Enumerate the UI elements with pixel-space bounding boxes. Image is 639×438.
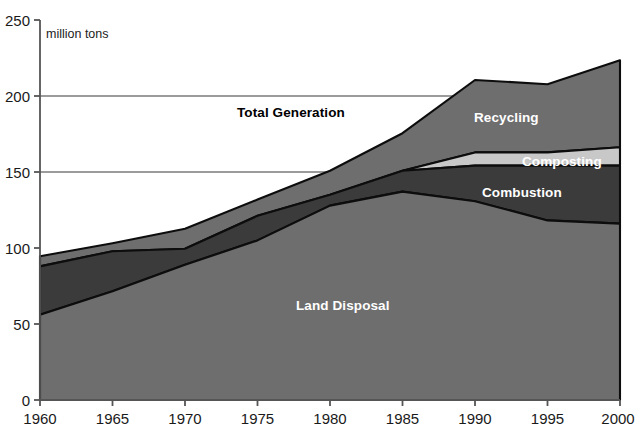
y-tick-label-150: 150: [0, 165, 30, 180]
series-label-land-disposal: Land Disposal: [296, 299, 390, 313]
series-label-total-generation: Total Generation: [237, 106, 345, 120]
x-tick-label-1965: 1965: [83, 411, 143, 426]
x-tick-label-1960: 1960: [10, 411, 70, 426]
y-tick-label-200: 200: [0, 89, 30, 104]
series-label-recycling: Recycling: [474, 111, 539, 125]
x-tick-label-1990: 1990: [445, 411, 505, 426]
y-axis-unit-label: million tons: [46, 28, 109, 41]
series-label-combustion: Combustion: [482, 186, 562, 200]
x-tick-label-1980: 1980: [300, 411, 360, 426]
series-label-composting: Composting: [522, 155, 602, 169]
y-tick-label-100: 100: [0, 241, 30, 256]
y-tick-label-250: 250: [0, 13, 30, 28]
x-tick-label-1970: 1970: [155, 411, 215, 426]
x-tick-label-1985: 1985: [373, 411, 433, 426]
x-tick-label-2000: 2000: [588, 411, 639, 426]
y-tick-label-0: 0: [0, 393, 30, 408]
area-land-disposal: [40, 192, 620, 400]
x-tick-label-1975: 1975: [228, 411, 288, 426]
y-tick-label-50: 50: [0, 317, 30, 332]
x-tick-label-1995: 1995: [518, 411, 578, 426]
